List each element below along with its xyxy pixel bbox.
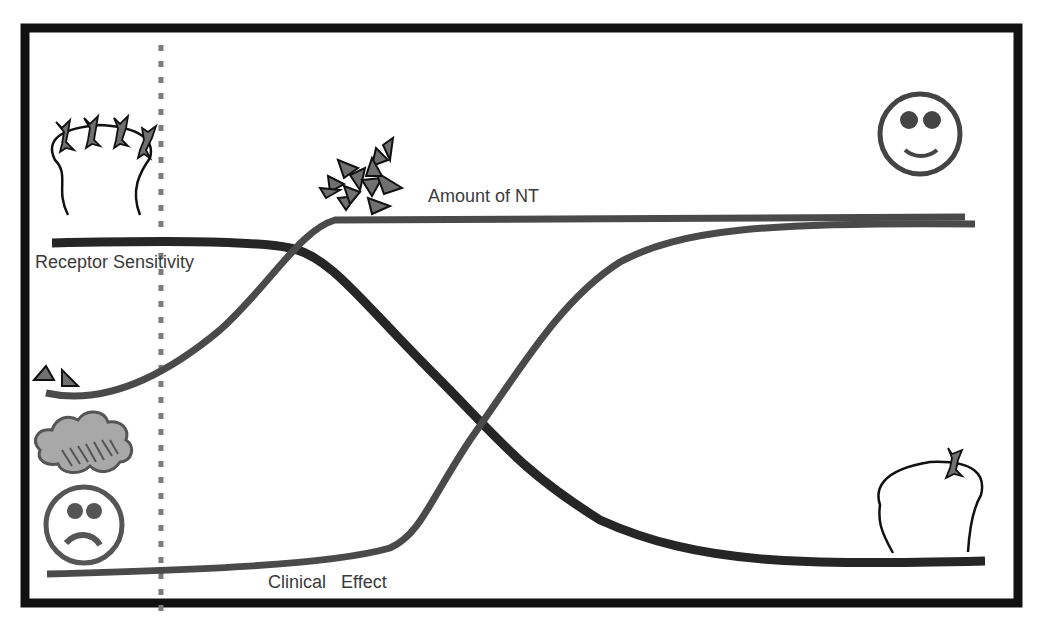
- rain-cloud-icon: [36, 412, 132, 473]
- happy-face-icon: [880, 94, 960, 174]
- nt-few-icon: [34, 366, 78, 386]
- diagram-frame: [25, 28, 1018, 603]
- clinical-effect-curve: [47, 224, 975, 574]
- neuron-one-receptor-icon: [878, 448, 982, 553]
- clinical-effect-label: Clinical Effect: [268, 572, 387, 593]
- sad-face-icon: [46, 487, 122, 563]
- receptor-sensitivity-label: Receptor Sensitivity: [35, 252, 194, 273]
- amount-of-nt-label: Amount of NT: [428, 186, 539, 207]
- nt-cluster-icon: [320, 138, 402, 214]
- diagram-canvas: [0, 0, 1045, 620]
- receptor-sensitivity-curve: [52, 242, 985, 563]
- neuron-many-receptors-icon: [52, 116, 156, 215]
- diagram-stage: Receptor Sensitivity Amount of NT Clinic…: [0, 0, 1045, 620]
